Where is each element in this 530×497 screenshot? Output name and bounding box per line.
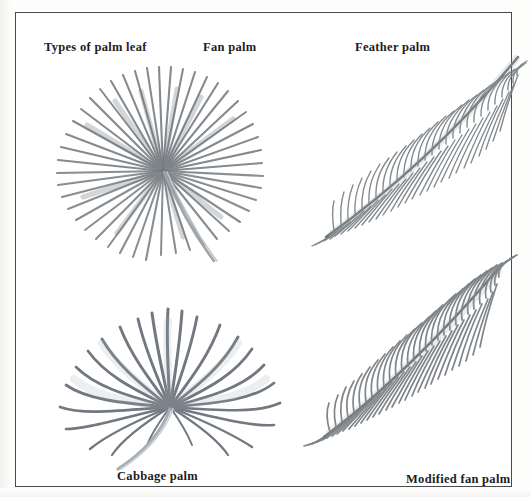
fan-palm-illustration (30, 53, 240, 268)
feather-palm-illustration (312, 41, 530, 246)
page-edge-left (0, 0, 15, 497)
palm-leaf-figure: Types of palm leaf Fan palm Feather palm… (0, 0, 530, 497)
fan-palm-blade (57, 67, 263, 260)
modified-fan-frond (304, 255, 517, 446)
modified-fan-palm-illustration (302, 235, 530, 447)
caption-modified-fan-palm: Modified fan palm (406, 472, 510, 487)
feather-palm-frond (312, 57, 527, 246)
caption-fan-palm: Fan palm (203, 40, 256, 55)
caption-types-of-palm-leaf: Types of palm leaf (44, 40, 147, 55)
cabbage-palm-blade (60, 309, 280, 469)
plate-frame: Types of palm leaf Fan palm Feather palm… (15, 12, 512, 487)
caption-feather-palm: Feather palm (355, 40, 430, 55)
caption-cabbage-palm: Cabbage palm (117, 469, 198, 484)
page-edge-bottom (0, 488, 530, 497)
cabbage-palm-illustration (52, 285, 292, 470)
